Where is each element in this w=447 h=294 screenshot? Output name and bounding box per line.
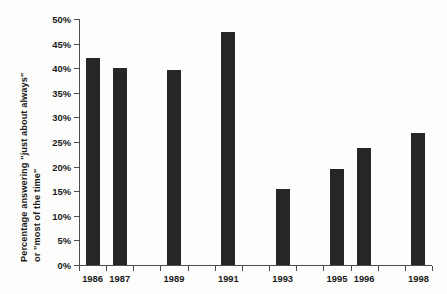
x-axis-tick bbox=[215, 266, 216, 271]
y-axis-tick-label: 10% bbox=[52, 210, 71, 221]
y-axis-tick-label: 50% bbox=[52, 14, 71, 25]
y-axis-tick bbox=[74, 216, 79, 217]
x-axis-tick bbox=[106, 266, 107, 271]
bar-1991 bbox=[221, 32, 235, 265]
x-axis-tick bbox=[188, 266, 189, 271]
bar-chart-figure: Percentage answering "just about always"… bbox=[0, 0, 447, 294]
y-axis-tick bbox=[74, 19, 79, 20]
y-axis-tick bbox=[74, 191, 79, 192]
x-axis-tick-label-1987: 1987 bbox=[109, 273, 130, 284]
x-axis-tick-label-1991: 1991 bbox=[218, 273, 239, 284]
x-axis-tick bbox=[323, 266, 324, 271]
x-axis-tick bbox=[242, 266, 243, 271]
x-axis-tick-label-1998: 1998 bbox=[408, 273, 429, 284]
x-axis-tick bbox=[79, 266, 80, 271]
y-axis-tick-label: 20% bbox=[52, 161, 71, 172]
x-axis-tick bbox=[133, 266, 134, 271]
y-axis-tick-label: 0% bbox=[57, 260, 71, 271]
y-axis-tick-label: 5% bbox=[57, 235, 71, 246]
bar-1986 bbox=[86, 58, 100, 265]
x-axis-tick-label-1995: 1995 bbox=[327, 273, 348, 284]
y-axis-tick-label: 25% bbox=[52, 137, 71, 148]
x-axis-tick bbox=[269, 266, 270, 271]
y-axis-tick-label: 40% bbox=[52, 63, 71, 74]
x-axis-tick bbox=[378, 266, 379, 271]
y-axis-tick bbox=[74, 117, 79, 118]
x-axis-tick bbox=[160, 266, 161, 271]
x-axis-tick-label-1996: 1996 bbox=[354, 273, 375, 284]
x-axis-tick bbox=[296, 266, 297, 271]
x-axis-tick-label-1989: 1989 bbox=[164, 273, 185, 284]
plot-area: 0%5%10%15%20%25%30%35%40%45%50% 19861987… bbox=[0, 0, 447, 294]
bar-1987 bbox=[113, 68, 127, 265]
bar-1995 bbox=[330, 169, 344, 265]
bar-1993 bbox=[276, 189, 290, 265]
x-axis-tick-label-1993: 1993 bbox=[272, 273, 293, 284]
x-axis-tick-label-1986: 1986 bbox=[82, 273, 103, 284]
y-axis-line bbox=[79, 19, 80, 266]
y-axis-tick-label: 35% bbox=[52, 87, 71, 98]
y-axis-tick bbox=[74, 167, 79, 168]
y-axis-tick-label: 45% bbox=[52, 38, 71, 49]
y-axis-tick bbox=[74, 68, 79, 69]
x-axis-tick bbox=[405, 266, 406, 271]
x-axis-tick bbox=[432, 266, 433, 271]
bar-1996 bbox=[357, 148, 371, 265]
bar-1998 bbox=[411, 133, 425, 265]
y-axis-tick-label: 15% bbox=[52, 186, 71, 197]
y-axis-tick-label: 30% bbox=[52, 112, 71, 123]
y-axis-tick bbox=[74, 93, 79, 94]
y-axis-tick bbox=[74, 44, 79, 45]
x-axis-line bbox=[79, 265, 432, 266]
y-axis-tick bbox=[74, 142, 79, 143]
bar-1989 bbox=[167, 70, 181, 265]
x-axis-tick bbox=[351, 266, 352, 271]
y-axis-tick bbox=[74, 240, 79, 241]
